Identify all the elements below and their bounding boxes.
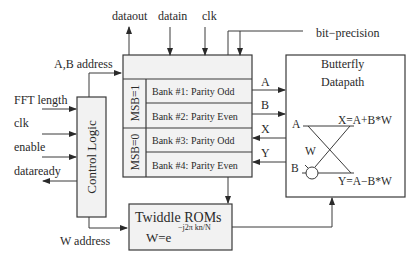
control-logic-block: Control Logic [77, 97, 106, 217]
bit-precision-line [228, 31, 303, 55]
butterfly-x-eq: X=A+B*W [338, 114, 392, 126]
memory-block: MSB=1 MSB=0 Bank #1: Parity Odd Bank #2:… [123, 55, 252, 177]
dataready-label: dataready [14, 164, 61, 178]
datapath-connections: A B X Y [252, 75, 286, 162]
enable-label: enable [14, 140, 45, 154]
butterfly-y-eq: Y=A−B*W [338, 175, 392, 187]
butterfly-title-2: Datapath [321, 75, 364, 89]
fft-architecture-diagram: MSB=1 MSB=0 Bank #1: Parity Odd Bank #2:… [0, 0, 418, 263]
conn-y-label: Y [261, 146, 270, 160]
ab-address-line [89, 73, 121, 97]
bank-3-label: Bank #3: Parity Odd [152, 135, 235, 146]
bank-1-label: Bank #1: Parity Odd [152, 86, 235, 97]
twiddle-to-butterfly-line [232, 198, 332, 227]
bank-4-label: Bank #4: Parity Even [152, 160, 238, 171]
butterfly-in-a: A [292, 118, 301, 130]
msb1-label: MSB=1 [129, 84, 141, 121]
dataout-label: dataout [112, 9, 148, 23]
control-logic-label: Control Logic [84, 120, 99, 194]
w-address-label: W address [60, 234, 110, 248]
w-address-line [89, 217, 127, 228]
conn-a-label: A [261, 75, 270, 89]
bank-2-label: Bank #2: Parity Even [152, 111, 238, 122]
conn-x-label: X [261, 122, 270, 136]
clk-left-label: clk [14, 116, 29, 130]
butterfly-in-b: B [291, 162, 299, 174]
top-signals: dataout datain clk bit−precision [112, 9, 379, 55]
bit-precision-label: bit−precision [316, 26, 379, 40]
twiddle-formula-exponent: −j2π kn/N [178, 223, 211, 232]
datain-label: datain [158, 9, 187, 23]
conn-b-label: B [261, 98, 269, 112]
msb0-label: MSB=0 [129, 133, 141, 170]
butterfly-datapath-block: Butterfly Datapath X=A+B*W A W B Y=A−B*W [286, 55, 405, 197]
left-signals: A,B address FFT length clk enable datare… [14, 57, 127, 248]
clk-top-label: clk [202, 9, 217, 23]
twiddle-formula-base: W=e [146, 230, 172, 245]
ab-address-label: A,B address [54, 57, 113, 71]
butterfly-w: W [305, 145, 316, 157]
butterfly-title-1: Butterfly [321, 57, 364, 71]
fft-length-label: FFT length [14, 93, 67, 107]
